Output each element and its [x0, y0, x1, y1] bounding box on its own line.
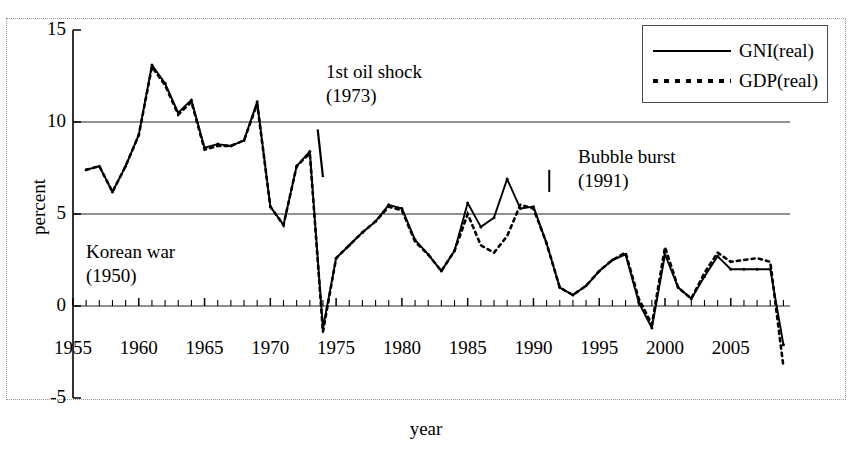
data-point-2002: [690, 297, 693, 300]
annotation-bubble-burst: Bubble burst (1991): [578, 145, 676, 193]
legend-entry-gni: GNI(real): [643, 36, 829, 66]
x-tick-label-1960: 1960: [109, 337, 169, 359]
data-point-1975: [335, 257, 338, 260]
data-point-1968: [243, 139, 246, 142]
data-point-1996: [611, 259, 614, 262]
data-point-1989: [519, 207, 522, 210]
data-point-1978: [374, 220, 377, 223]
data-point-1956: [85, 168, 88, 171]
data-point-1969: [256, 100, 259, 103]
y-tick-label-10: 10: [18, 110, 66, 132]
chart-legend: GNI(real) GDP(real): [642, 25, 828, 103]
data-point-1980: [400, 207, 403, 210]
annotation-oil-shock: 1st oil shock (1973): [326, 60, 422, 108]
x-tick-label-1965: 1965: [175, 337, 235, 359]
data-point-1957: [98, 165, 101, 168]
data-point-1986: [479, 225, 482, 228]
data-point-2008: [769, 268, 772, 271]
data-point-1999: [650, 327, 653, 330]
x-tick-label-1970: 1970: [240, 337, 300, 359]
data-point-1988: [506, 178, 509, 181]
x-tick-label-2005: 2005: [701, 337, 761, 359]
x-tick-label-1990: 1990: [503, 337, 563, 359]
data-point-1967: [229, 144, 232, 147]
data-point-1970: [269, 205, 272, 208]
data-point-1982: [427, 253, 430, 256]
series-line-gni: [86, 65, 783, 345]
annotation-bubble-burst-year: (1991): [578, 169, 676, 193]
y-axis-title: percent: [28, 162, 50, 252]
data-point-1971: [282, 224, 285, 227]
legend-label-gni: GNI(real): [739, 40, 814, 62]
x-tick-label-1975: 1975: [306, 337, 366, 359]
x-tick-label-1955: 1955: [43, 337, 103, 359]
annotation-oil-shock-label: 1st oil shock: [326, 61, 422, 82]
data-point-1962: [164, 82, 167, 85]
y-tick-label--5: -5: [18, 386, 66, 408]
data-point-1983: [440, 270, 443, 273]
annotation-korean-war-label: Korean war: [86, 241, 175, 262]
data-point-2007: [756, 268, 759, 271]
legend-swatch-solid-icon: [653, 44, 731, 58]
x-tick-label-1980: 1980: [372, 337, 432, 359]
data-point-1992: [558, 286, 561, 289]
data-point-1981: [414, 238, 417, 241]
data-point-2004: [716, 255, 719, 258]
data-point-1990: [532, 205, 535, 208]
x-tick-label-2000: 2000: [635, 337, 695, 359]
data-point-1963: [177, 111, 180, 114]
data-point-1961: [150, 63, 153, 66]
data-point-1965: [203, 146, 206, 149]
data-point-1991: [545, 242, 548, 245]
annotation-leader-lines: [318, 129, 550, 192]
data-point-1959: [124, 165, 127, 168]
data-point-1987: [492, 216, 495, 219]
data-point-2003: [703, 275, 706, 278]
y-tick-label-15: 15: [18, 18, 66, 40]
legend-label-gdp: GDP(real): [739, 70, 818, 92]
data-point-1997: [624, 253, 627, 256]
data-point-1985: [466, 201, 469, 204]
data-point-1966: [216, 143, 219, 146]
data-point-1973: [308, 150, 311, 153]
data-point-2005: [729, 268, 732, 271]
y-tick-label-0: 0: [18, 294, 66, 316]
data-point-1977: [361, 231, 364, 234]
annotation-korean-war-year: (1950): [86, 264, 175, 288]
data-point-2000: [664, 253, 667, 256]
data-point-1998: [637, 301, 640, 304]
data-point-1974: [321, 327, 324, 330]
data-point-2009: [782, 343, 785, 346]
data-point-2001: [677, 286, 680, 289]
annotation-oil-shock-year: (1973): [326, 84, 422, 108]
gridlines-group: [73, 122, 790, 306]
data-point-1994: [585, 284, 588, 287]
x-axis-title: year: [0, 418, 852, 440]
annotation-bubble-burst-label: Bubble burst: [578, 146, 676, 167]
x-tick-label-1995: 1995: [569, 337, 629, 359]
leader-oil-shock: [318, 129, 323, 177]
series-line-gdp: [86, 67, 783, 367]
x-tick-label-1985: 1985: [438, 337, 498, 359]
data-point-1993: [571, 293, 574, 296]
data-point-1979: [387, 203, 390, 206]
data-point-1964: [190, 98, 193, 101]
data-point-1995: [598, 270, 601, 273]
data-point-1976: [348, 244, 351, 247]
series-markers-gni: [85, 63, 785, 346]
data-point-1984: [453, 249, 456, 252]
data-point-2006: [742, 268, 745, 271]
legend-entry-gdp: GDP(real): [643, 66, 829, 96]
data-point-1960: [137, 133, 140, 136]
data-point-1972: [295, 165, 298, 168]
annotation-korean-war: Korean war (1950): [86, 240, 175, 288]
chart-figure: -5051015 1955196019651970197519801985199…: [0, 0, 852, 464]
data-point-1958: [111, 190, 114, 193]
legend-swatch-dotted-icon: [653, 74, 731, 88]
